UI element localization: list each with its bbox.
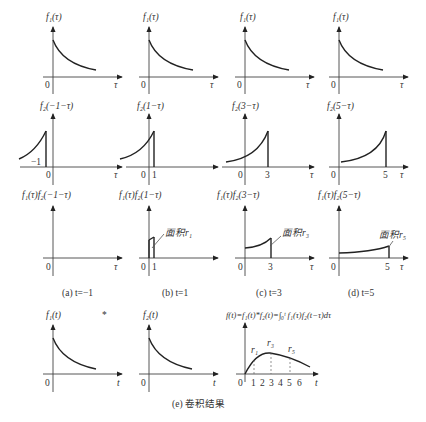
svg-text:0: 0 bbox=[141, 378, 146, 388]
svg-text:τ: τ bbox=[310, 170, 314, 180]
row4-f2: f₂(t) 0 t bbox=[139, 310, 218, 392]
svg-text:0: 0 bbox=[46, 170, 51, 180]
svg-text:−1: −1 bbox=[31, 157, 41, 167]
svg-text:1: 1 bbox=[251, 378, 256, 388]
svg-text:面积r₁: 面积r₁ bbox=[165, 228, 192, 238]
svg-text:f₁(τ)f₂(3−τ): f₁(τ)f₂(3−τ) bbox=[217, 190, 260, 201]
svg-text:r₁: r₁ bbox=[251, 345, 258, 355]
svg-text:τ: τ bbox=[400, 80, 404, 90]
svg-text:τ: τ bbox=[114, 170, 118, 180]
svg-text:τ: τ bbox=[210, 80, 214, 90]
row2-panel-4: f₂(5−τ) 0 5 τ bbox=[327, 101, 408, 185]
svg-text:面积r₃: 面积r₃ bbox=[282, 228, 309, 238]
row3-panel-4: f₁(τ)f₂(5−τ) 面积r₅ 0 5 τ (d) t=5 bbox=[318, 190, 408, 299]
row2-panel-3: f₂(3−τ) 0 3 τ bbox=[222, 101, 314, 185]
svg-text:t: t bbox=[315, 378, 318, 388]
svg-text:5: 5 bbox=[287, 378, 292, 388]
svg-text:r₃: r₃ bbox=[267, 338, 274, 348]
svg-text:t: t bbox=[213, 378, 216, 388]
svg-text:1: 1 bbox=[152, 170, 157, 180]
svg-text:t: t bbox=[117, 378, 120, 388]
svg-text:(d) t=5: (d) t=5 bbox=[348, 288, 374, 299]
row4-f1: f₁(t) 0 t bbox=[43, 310, 122, 392]
svg-text:1: 1 bbox=[152, 262, 157, 272]
svg-text:τ: τ bbox=[400, 262, 404, 272]
svg-text:f₁(τ)f₂(1−τ): f₁(τ)f₂(1−τ) bbox=[119, 190, 162, 201]
svg-text:f₂(−1−τ): f₂(−1−τ) bbox=[40, 101, 73, 112]
svg-text:f₂(1−τ): f₂(1−τ) bbox=[137, 101, 164, 112]
svg-text:面积r₅: 面积r₅ bbox=[379, 230, 406, 240]
row1-panel-4: f₁(τ) 0 τ bbox=[329, 12, 408, 94]
svg-text:5: 5 bbox=[385, 262, 390, 272]
svg-text:f₁(τ): f₁(τ) bbox=[333, 12, 349, 23]
svg-text:f(t)=f₁(t)*f₂(t)=∫₀ᵗ f₁(τ)f₂(t: f(t)=f₁(t)*f₂(t)=∫₀ᵗ f₁(τ)f₂(t−τ)dτ bbox=[226, 310, 332, 321]
row1-panel-1: f₁(τ) 0 τ bbox=[43, 12, 122, 94]
svg-text:0: 0 bbox=[238, 170, 243, 180]
svg-text:τ: τ bbox=[114, 80, 118, 90]
svg-text:f₁(t): f₁(t) bbox=[46, 310, 61, 321]
svg-text:f₂(5−τ): f₂(5−τ) bbox=[327, 101, 354, 112]
svg-text:3: 3 bbox=[269, 378, 274, 388]
svg-text:0: 0 bbox=[141, 262, 146, 272]
svg-text:f₁(τ): f₁(τ) bbox=[240, 12, 256, 23]
ylabel: f₁(τ) bbox=[46, 12, 62, 23]
svg-text:0: 0 bbox=[238, 378, 243, 388]
svg-text:0: 0 bbox=[141, 80, 146, 90]
svg-text:r₅: r₅ bbox=[288, 344, 295, 354]
svg-text:3: 3 bbox=[268, 262, 273, 272]
svg-text:τ: τ bbox=[310, 262, 314, 272]
svg-text:0: 0 bbox=[141, 170, 146, 180]
svg-text:3: 3 bbox=[265, 170, 270, 180]
row1-panel-3: f₁(τ) 0 τ bbox=[235, 12, 314, 94]
row2-panel-2: f₂(1−τ) 0 1 bbox=[120, 101, 218, 185]
row3-panel-2: f₁(τ)f₂(1−τ) 面积r₁ 0 1 (b) t=1 bbox=[119, 190, 218, 299]
svg-text:2: 2 bbox=[260, 378, 265, 388]
svg-text:5: 5 bbox=[383, 170, 388, 180]
decay-curve bbox=[53, 40, 96, 70]
svg-text:τ: τ bbox=[400, 170, 404, 180]
convolution-operator: * bbox=[102, 310, 107, 320]
svg-text:6: 6 bbox=[297, 378, 302, 388]
svg-text:τ: τ bbox=[114, 262, 118, 272]
svg-text:(b) t=1: (b) t=1 bbox=[162, 288, 188, 299]
row1-panel-2: f₁(τ) 0 τ bbox=[139, 12, 218, 94]
convolution-figure: f₁(τ) 0 τ f₁(τ) 0 τ f₁(τ) 0 τ f₁(τ) 0 τ … bbox=[0, 0, 426, 422]
svg-text:τ: τ bbox=[306, 80, 310, 90]
svg-text:(a) t=−1: (a) t=−1 bbox=[62, 288, 93, 299]
svg-text:0: 0 bbox=[238, 262, 243, 272]
row3-panel-3: f₁(τ)f₂(3−τ) 面积r₃ 0 3 τ (c) t=3 bbox=[217, 190, 314, 299]
svg-text:0: 0 bbox=[331, 170, 336, 180]
svg-text:f₁(τ)f₂(5−τ): f₁(τ)f₂(5−τ) bbox=[318, 190, 361, 201]
svg-text:(c) t=3: (c) t=3 bbox=[256, 288, 282, 299]
svg-text:4: 4 bbox=[278, 378, 283, 388]
caption-e: (e) 卷积结果 bbox=[172, 398, 225, 410]
svg-text:0: 0 bbox=[331, 80, 336, 90]
svg-text:0: 0 bbox=[45, 80, 50, 90]
svg-text:f₁(τ): f₁(τ) bbox=[143, 12, 159, 23]
row4-result: f(t)=f₁(t)*f₂(t)=∫₀ᵗ f₁(τ)f₂(t−τ)dτ r₁ r… bbox=[226, 310, 332, 388]
svg-text:0: 0 bbox=[237, 80, 242, 90]
svg-text:f₂(3−τ): f₂(3−τ) bbox=[232, 101, 259, 112]
svg-text:f₂(t): f₂(t) bbox=[143, 310, 158, 321]
svg-text:f₁(τ)f₂(−1−τ): f₁(τ)f₂(−1−τ) bbox=[22, 190, 71, 201]
svg-text:0: 0 bbox=[46, 262, 51, 272]
row3-panel-1: f₁(τ)f₂(−1−τ) 0 τ (a) t=−1 bbox=[22, 190, 122, 299]
svg-text:0: 0 bbox=[331, 262, 336, 272]
row2-panel-1: f₂(−1−τ) −1 0 τ bbox=[19, 101, 122, 185]
svg-text:0: 0 bbox=[45, 378, 50, 388]
